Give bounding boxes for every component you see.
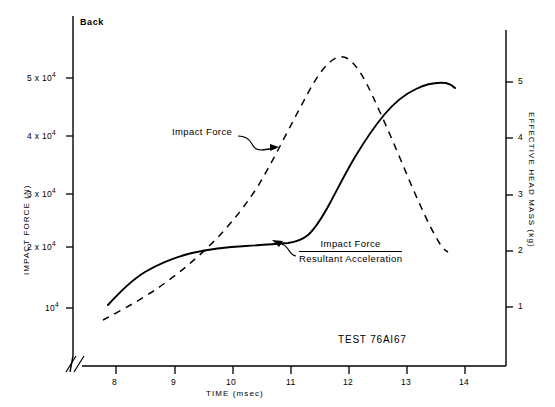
axis-lines bbox=[66, 16, 506, 372]
y-tick-label-right-4: 4 bbox=[518, 132, 523, 142]
leader-impact-force bbox=[238, 136, 279, 151]
ratio-denominator: Resultant Acceleration bbox=[299, 252, 402, 265]
y-tick-label-left-3: 3 x 104 bbox=[27, 187, 56, 199]
x-tick-label-12: 12 bbox=[343, 377, 353, 387]
y-tick-label-left-4: 4 x 104 bbox=[27, 129, 56, 141]
annotation-impact-force: Impact Force bbox=[172, 126, 232, 137]
back-label: Back bbox=[80, 17, 104, 27]
y-axis-left-title: IMPACT FORCE (N) bbox=[22, 184, 31, 275]
x-tick-label-14: 14 bbox=[459, 377, 469, 387]
y-ticks-right bbox=[506, 82, 513, 307]
x-ticks bbox=[116, 366, 465, 374]
y-tick-label-right-1: 1 bbox=[518, 301, 523, 311]
y-tick-label-left-1: 104 bbox=[45, 301, 59, 313]
y-axis-right-title: EFFECTIVE HEAD MASS (kg) bbox=[527, 112, 536, 248]
chart-figure: Back 5 x 104 4 x 104 3 x 104 2 x 104 104… bbox=[0, 0, 555, 407]
y-ticks-left bbox=[66, 78, 73, 308]
y-tick-label-right-3: 3 bbox=[518, 189, 523, 199]
axis-break-icon bbox=[66, 356, 84, 372]
x-tick-label-11: 11 bbox=[286, 377, 295, 387]
x-tick-label-8: 8 bbox=[112, 377, 117, 387]
y-tick-label-left-5: 5 x 104 bbox=[27, 71, 56, 83]
chart-canvas bbox=[0, 0, 555, 407]
x-tick-label-10: 10 bbox=[226, 377, 236, 387]
ratio-numerator: Impact Force bbox=[299, 238, 402, 252]
series-impact-force-dashed bbox=[103, 57, 448, 320]
y-tick-label-right-2: 2 bbox=[518, 245, 523, 255]
x-tick-label-9: 9 bbox=[171, 377, 176, 387]
y-tick-label-left-2: 2 x 104 bbox=[27, 240, 56, 252]
test-id-label: TEST 76AI67 bbox=[338, 334, 407, 345]
y-tick-label-right-5: 5 bbox=[518, 76, 523, 86]
series-force-over-acceleration-solid bbox=[108, 83, 455, 305]
x-tick-label-13: 13 bbox=[401, 377, 411, 387]
x-axis-title: TIME (msec) bbox=[206, 389, 264, 398]
annotation-force-over-acceleration: Impact Force Resultant Acceleration bbox=[299, 238, 402, 265]
